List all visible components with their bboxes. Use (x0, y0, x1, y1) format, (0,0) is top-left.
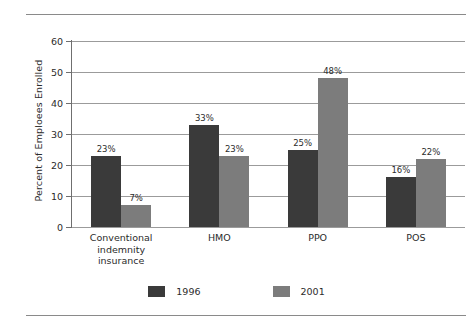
bar-2001-pos: 22% (416, 159, 446, 227)
x-axis-label-hmo: HMO (164, 232, 274, 244)
gridline (72, 227, 465, 228)
x-axis-label-pos: POS (361, 232, 471, 244)
bar-value-label: 16% (391, 165, 410, 175)
x-axis-label-line: indemnity (66, 244, 176, 256)
y-tick-label: 60 (51, 36, 63, 47)
legend-swatch-1996 (148, 286, 165, 297)
y-tick-label: 20 (51, 160, 63, 171)
bar-value-label: 25% (293, 138, 312, 148)
y-tick-mark (66, 196, 72, 197)
y-tick-label: 40 (51, 98, 63, 109)
bar-chart-figure: Percent of Emploees Enrolled 01020304050… (0, 0, 473, 324)
bar-value-label: 48% (323, 66, 342, 76)
x-axis-label-line: HMO (164, 232, 274, 244)
bar-1996-conventional: 23% (91, 156, 121, 227)
y-tick-mark (66, 103, 72, 104)
x-axis-label-line: insurance (66, 255, 176, 267)
x-axis-label-line: POS (361, 232, 471, 244)
x-axis-label-line: PPO (263, 232, 373, 244)
y-tick-mark (66, 134, 72, 135)
gridline (72, 41, 465, 42)
bar-value-label: 22% (421, 147, 440, 157)
x-axis-label-ppo: PPO (263, 232, 373, 244)
legend-label-2001: 2001 (301, 286, 325, 297)
gridline (72, 103, 465, 104)
bar-2001-ppo: 48% (318, 78, 348, 227)
bar-2001-conventional: 7% (121, 205, 151, 227)
bar-value-label: 33% (195, 113, 214, 123)
gridline (72, 72, 465, 73)
chart-legend: 19962001 (0, 286, 473, 297)
y-tick-label: 10 (51, 191, 63, 202)
gridline (72, 134, 465, 135)
legend-swatch-2001 (273, 286, 290, 297)
bar-2001-hmo: 23% (219, 156, 249, 227)
y-tick-label: 50 (51, 67, 63, 78)
y-tick-mark (66, 227, 72, 228)
y-tick-label: 30 (51, 129, 63, 140)
bar-value-label: 7% (129, 193, 143, 203)
y-tick-mark (66, 41, 72, 42)
bar-value-label: 23% (225, 144, 244, 154)
bar-1996-hmo: 33% (189, 125, 219, 227)
y-tick-label: 0 (57, 222, 63, 233)
bar-value-label: 23% (97, 144, 116, 154)
plot-area: 0102030405060 23%7%33%23%25%48%16%22% (72, 41, 465, 227)
x-axis-label-conventional: Conventionalindemnityinsurance (66, 232, 176, 267)
legend-item-2001[interactable]: 2001 (273, 286, 325, 297)
x-axis-label-line: Conventional (66, 232, 176, 244)
y-axis-title: Percent of Emploees Enrolled (33, 36, 44, 226)
legend-item-1996[interactable]: 1996 (148, 286, 200, 297)
y-tick-mark (66, 165, 72, 166)
legend-label-1996: 1996 (176, 286, 200, 297)
bar-1996-ppo: 25% (288, 150, 318, 228)
bar-1996-pos: 16% (386, 177, 416, 227)
y-tick-mark (66, 72, 72, 73)
